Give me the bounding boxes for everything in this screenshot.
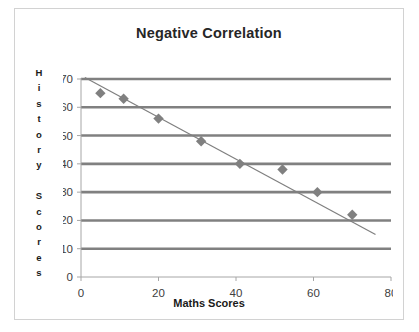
chart-container: Negative Correlation HistoryScores 01020…	[14, 8, 404, 320]
y-axis-title-char: o	[31, 127, 47, 142]
y-tick-label: 50	[63, 130, 73, 142]
data-point-marker	[312, 187, 322, 197]
y-tick-label: 60	[63, 101, 73, 113]
trendline-segment	[85, 78, 376, 235]
y-axis-title-char: r	[31, 142, 47, 157]
y-tick-label: 20	[63, 214, 73, 226]
y-axis-title-char: s	[31, 265, 47, 280]
y-tick-label: 70	[63, 73, 73, 85]
y-axis-ticks	[77, 79, 81, 277]
data-point-marker	[196, 136, 206, 146]
y-tick-labels: 010203040506070	[63, 73, 73, 283]
y-tick-label: 40	[63, 158, 73, 170]
data-point-marker	[347, 210, 357, 220]
data-point-marker	[95, 88, 105, 98]
y-tick-label: 0	[67, 271, 73, 283]
y-axis-title-char: H	[31, 65, 47, 80]
plot-area: 010203040506070 020406080	[63, 61, 393, 301]
y-axis-title-char: o	[31, 219, 47, 234]
y-axis-title-char: r	[31, 234, 47, 249]
x-axis-ticks	[81, 277, 391, 281]
data-point-marker	[118, 94, 128, 104]
y-tick-label: 30	[63, 186, 73, 198]
x-axis-title: Maths Scores	[15, 297, 403, 309]
y-axis-title-char: i	[31, 80, 47, 95]
y-axis-title: HistoryScores	[31, 65, 47, 281]
y-tick-label: 10	[63, 243, 73, 255]
y-axis-title-char: s	[31, 96, 47, 111]
data-point-marker	[235, 159, 245, 169]
y-axis-title-char: S	[31, 188, 47, 203]
y-axis-title-char	[31, 173, 47, 188]
data-point-marker	[277, 164, 287, 174]
y-axis-title-char: t	[31, 111, 47, 126]
scatter-plot-svg: 010203040506070 020406080	[63, 61, 393, 301]
y-axis-title-char: y	[31, 157, 47, 172]
chart-title: Negative Correlation	[15, 25, 403, 41]
y-axis-title-char: c	[31, 204, 47, 219]
trendline	[85, 78, 376, 235]
y-axis-title-char: e	[31, 250, 47, 265]
